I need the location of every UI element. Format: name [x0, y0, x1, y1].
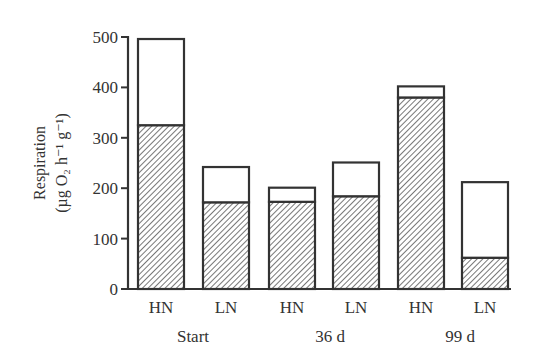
- x-group-label: 99 d: [445, 327, 475, 346]
- y-tick-label: 0: [110, 280, 119, 299]
- x-tick-label: LN: [474, 298, 497, 317]
- x-tick-label: LN: [345, 298, 368, 317]
- x-axis: HNLNHNLNHNLNStart36 d99 d: [127, 289, 511, 346]
- x-tick-label: LN: [215, 298, 238, 317]
- bar-segment-hatched: [203, 202, 249, 289]
- bar-segment-hatched: [398, 97, 444, 289]
- y-tick-label: 300: [93, 129, 119, 148]
- x-tick-label: HN: [149, 298, 174, 317]
- bar-segment-open: [269, 188, 315, 202]
- x-group-label: 36 d: [315, 327, 345, 346]
- y-axis-title: Respiration: [31, 126, 49, 200]
- bar-hn-4: [398, 86, 444, 289]
- bar-ln-5: [462, 182, 508, 289]
- x-group-label: Start: [177, 327, 209, 346]
- bar-ln-3: [333, 162, 379, 289]
- bar-segment-open: [333, 162, 379, 196]
- bar-segment-hatched: [462, 258, 508, 289]
- bar-segment-open: [138, 39, 184, 125]
- bar-hn-0: [138, 39, 184, 289]
- y-axis-units: (µg O₂ h⁻¹ g⁻¹): [53, 113, 71, 213]
- y-axis: 0100200300400500: [93, 28, 129, 299]
- bar-segment-hatched: [333, 196, 379, 289]
- y-tick-label: 200: [93, 179, 119, 198]
- stacked-bar-chart: Respiration(µg O₂ h⁻¹ g⁻¹) 0100200300400…: [0, 0, 534, 364]
- x-tick-label: HN: [409, 298, 434, 317]
- x-tick-label: HN: [280, 298, 305, 317]
- bar-segment-hatched: [269, 202, 315, 289]
- y-tick-label: 100: [93, 230, 119, 249]
- bar-segment-open: [462, 182, 508, 258]
- bar-segment-hatched: [138, 125, 184, 289]
- y-axis-label: Respiration(µg O₂ h⁻¹ g⁻¹): [31, 113, 71, 213]
- bar-hn-2: [269, 188, 315, 289]
- bar-segment-open: [203, 167, 249, 202]
- y-tick-label: 400: [93, 78, 119, 97]
- bar-ln-1: [203, 167, 249, 289]
- bar-segment-open: [398, 86, 444, 97]
- y-tick-label: 500: [93, 28, 119, 47]
- bars: [138, 39, 508, 289]
